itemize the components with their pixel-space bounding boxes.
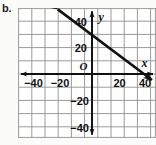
y-tick-label-neg40: −40	[70, 122, 89, 134]
origin-label: O	[80, 60, 88, 72]
x-tick-label-neg40: −40	[24, 77, 43, 89]
x-tick-label-neg20: −20	[51, 77, 70, 89]
coordinate-plane: −40 −20 20 40 40 20 −20 −40 O y x	[18, 8, 156, 138]
plot-background	[18, 8, 156, 138]
y-tick-label-neg20: −20	[70, 95, 89, 107]
graph-svg: −40 −20 20 40 40 20 −20 −40 O y x	[18, 8, 156, 138]
figure-container: b.	[0, 0, 156, 145]
x-tick-label-20: 20	[113, 77, 125, 89]
x-axis-label: x	[141, 56, 148, 70]
part-label: b.	[2, 2, 11, 14]
y-tick-label-20: 20	[75, 42, 87, 54]
y-axis-label: y	[97, 10, 105, 24]
y-tick-label-40: 40	[75, 16, 87, 28]
x-tick-label-40: 40	[139, 77, 151, 89]
